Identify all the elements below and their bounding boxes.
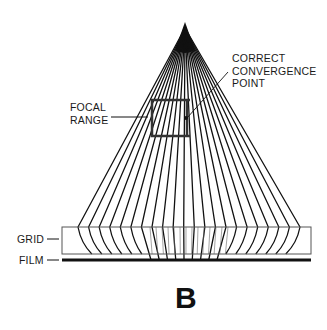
grid-outline [62,227,311,254]
focal-range-line1: FOCAL [70,101,108,114]
convergence-point-label: CORRECT CONVERGENCE POINT [232,52,316,90]
convergence-line2: CONVERGENCE [232,65,316,78]
focal-range-label: FOCAL RANGE [70,101,108,126]
film-label: FILM [19,254,44,267]
diagram-canvas [0,0,327,330]
grid-focusing-diagram: FOCAL RANGE CORRECT CONVERGENCE POINT GR… [0,0,327,330]
convergence-line3: POINT [232,77,316,90]
panel-letter: B [175,281,197,315]
focal-range-line2: RANGE [70,114,108,127]
grid-label: GRID [17,233,44,246]
grid-strips [150,227,228,254]
convergence-point-marker [184,116,188,120]
convergence-line1: CORRECT [232,52,316,65]
